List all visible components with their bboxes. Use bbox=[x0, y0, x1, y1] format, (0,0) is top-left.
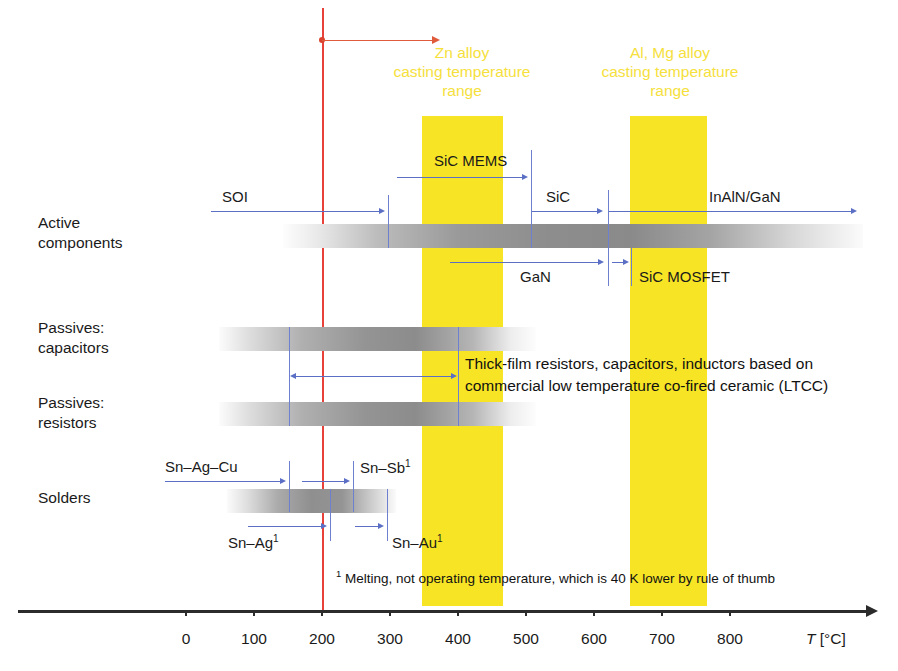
row-label-passives-capacitors: Passives: capacitors bbox=[38, 318, 109, 357]
arrow-sn-ag-cu-line bbox=[165, 481, 282, 482]
x-axis-tick-600 bbox=[593, 610, 595, 616]
x-axis-label-800: 800 bbox=[700, 630, 760, 648]
arrow-sn-sb-head bbox=[344, 478, 350, 484]
x-axis-tick-200 bbox=[321, 610, 323, 616]
label-sn-ag: Sn–Ag1 bbox=[228, 533, 279, 551]
row-label-solders: Solders bbox=[38, 488, 91, 508]
reference-arrow-head bbox=[432, 36, 440, 44]
x-axis-title: T [°C] bbox=[806, 630, 846, 648]
x-axis-tick-100 bbox=[253, 610, 255, 616]
label-sn-sb-text: Sn–Sb bbox=[360, 459, 405, 476]
x-axis-label-600: 600 bbox=[564, 630, 624, 648]
footnote-marker: 1 bbox=[336, 568, 341, 579]
x-axis-label-500: 500 bbox=[496, 630, 556, 648]
label-sn-ag-superscript: 1 bbox=[273, 533, 279, 544]
tick-sic-end bbox=[608, 190, 609, 248]
x-axis-title-unit: [°C] bbox=[820, 630, 846, 647]
tick-sic-mems-end bbox=[531, 150, 532, 190]
x-axis-tick-0 bbox=[185, 610, 187, 616]
arrow-sic-mems-head bbox=[522, 174, 528, 180]
x-axis-label-0: 0 bbox=[156, 630, 216, 648]
tick-sic-start bbox=[531, 190, 532, 248]
x-axis-label-700: 700 bbox=[632, 630, 692, 648]
reference-line-200c bbox=[322, 8, 324, 612]
temperature-range-chart: Zn alloy casting temperature range Al, M… bbox=[0, 0, 898, 671]
x-axis-label-300: 300 bbox=[360, 630, 420, 648]
x-axis-label-400: 400 bbox=[428, 630, 488, 648]
footnote: 1 Melting, not operating temperature, wh… bbox=[336, 568, 775, 586]
x-axis-tick-500 bbox=[525, 610, 527, 616]
range-bar-active-components bbox=[283, 224, 863, 248]
label-sic: SiC bbox=[546, 188, 570, 205]
arrow-soi-head bbox=[379, 208, 385, 214]
label-soi: SOI bbox=[222, 188, 248, 205]
x-axis-label-200: 200 bbox=[292, 630, 352, 648]
arrow-sn-ag-cu-head bbox=[280, 478, 286, 484]
x-axis-arrow-head bbox=[866, 605, 878, 617]
footnote-text: Melting, not operating temperature, whic… bbox=[345, 571, 775, 586]
band-zn-alloy-label: Zn alloy casting temperature range bbox=[392, 43, 532, 100]
arrow-ltcc-head-right bbox=[451, 373, 457, 379]
label-sn-au-superscript: 1 bbox=[437, 533, 443, 544]
tick-ltcc-end bbox=[458, 327, 459, 426]
arrow-gan-head bbox=[598, 259, 604, 265]
x-axis-tick-700 bbox=[661, 610, 663, 616]
label-sn-ag-text: Sn–Ag bbox=[228, 534, 273, 551]
tick-sn-sb-end bbox=[353, 461, 354, 512]
label-inaln-gan: InAlN/GaN bbox=[709, 188, 781, 205]
x-axis-tick-800 bbox=[729, 610, 731, 616]
arrow-sn-ag-line bbox=[248, 526, 323, 527]
label-sic-mosfet: SiC MOSFET bbox=[639, 268, 730, 285]
label-sn-ag-cu: Sn–Ag–Cu bbox=[165, 458, 238, 475]
tick-gan-end bbox=[608, 248, 609, 286]
label-sn-au: Sn–Au1 bbox=[392, 533, 443, 551]
label-gan: GaN bbox=[520, 268, 551, 285]
x-axis-line bbox=[18, 610, 870, 613]
x-axis-tick-400 bbox=[457, 610, 459, 616]
arrow-sn-sb-line bbox=[302, 481, 346, 482]
row-label-active-components: Active components bbox=[38, 213, 122, 252]
label-sic-mems: SiC MEMS bbox=[434, 152, 507, 169]
reference-arrow-line bbox=[322, 40, 434, 42]
label-sn-au-text: Sn–Au bbox=[392, 534, 437, 551]
arrow-sn-au-head bbox=[378, 523, 384, 529]
arrow-sic-mems-line bbox=[397, 177, 524, 178]
tick-sn-ag-end bbox=[330, 489, 331, 541]
row-label-passives-resistors: Passives: resistors bbox=[38, 393, 104, 432]
label-sn-sb: Sn–Sb1 bbox=[360, 458, 411, 476]
tick-soi-end bbox=[388, 195, 389, 248]
arrow-ltcc-head-left bbox=[290, 373, 296, 379]
tick-sn-au-end bbox=[387, 489, 388, 541]
tick-sic-mosfet-end bbox=[631, 248, 632, 286]
arrow-gan-line bbox=[450, 262, 600, 263]
label-sn-sb-superscript: 1 bbox=[405, 458, 411, 469]
x-axis-title-symbol: T bbox=[806, 630, 815, 647]
arrow-soi-line bbox=[211, 211, 381, 212]
arrow-ltcc-line bbox=[296, 376, 452, 377]
arrow-sic-line bbox=[532, 211, 599, 212]
range-bar-passives-capacitors bbox=[219, 327, 536, 351]
x-axis-tick-300 bbox=[389, 610, 391, 616]
arrow-inaln-gan-line bbox=[609, 211, 853, 212]
arrow-sic-mosfet-head bbox=[623, 259, 629, 265]
arrow-sn-au-line bbox=[355, 526, 380, 527]
range-bar-passives-resistors bbox=[219, 402, 536, 426]
range-bar-solders bbox=[227, 489, 396, 513]
tick-sn-ag-cu-end bbox=[289, 461, 290, 512]
arrow-sn-ag-head bbox=[321, 523, 327, 529]
arrow-sic-head bbox=[597, 208, 603, 214]
ltcc-annotation-line2: commercial low temperature co-fired cera… bbox=[465, 375, 828, 397]
x-axis-label-100: 100 bbox=[224, 630, 284, 648]
band-al-mg-alloy-label: Al, Mg alloy casting temperature range bbox=[586, 43, 754, 100]
ltcc-annotation-line1: Thick-film resistors, capacitors, induct… bbox=[465, 353, 813, 375]
arrow-inaln-gan-head bbox=[851, 208, 857, 214]
